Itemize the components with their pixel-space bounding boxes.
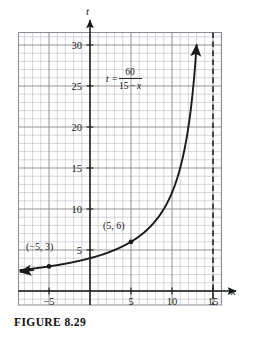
t-tick-label-30: 30 — [72, 40, 83, 51]
data-point--5-3 — [47, 264, 52, 269]
data-point-5-6 — [129, 239, 134, 244]
graph-canvas: −551015 51015202530 (−5, 3) (5, 6) x t t… — [0, 0, 258, 342]
equation-denominator-minus: − — [130, 81, 135, 91]
equation-lhs: t — [106, 74, 109, 84]
x-tick-label-15: 15 — [208, 296, 219, 307]
equation-denominator-a: 15 — [119, 81, 129, 91]
x-tick-label--5: −5 — [43, 296, 54, 307]
t-tick-label-20: 20 — [72, 122, 83, 133]
point-label-5-6: (5, 6) — [103, 220, 125, 232]
t-tick-label-10: 10 — [72, 204, 83, 215]
figure-container: −551015 51015202530 (−5, 3) (5, 6) x t t… — [0, 0, 258, 342]
equation-denominator-b: x — [136, 81, 142, 91]
equation-numerator: 60 — [125, 67, 135, 77]
x-tick-label-5: 5 — [128, 296, 133, 307]
point-label-neg5-3: (−5, 3) — [26, 241, 53, 253]
x-axis-label: x — [230, 285, 236, 297]
t-tick-label-5: 5 — [77, 245, 82, 256]
t-tick-label-15: 15 — [72, 163, 83, 174]
t-tick-label-25: 25 — [72, 81, 83, 92]
figure-caption: FIGURE 8.29 — [14, 316, 86, 328]
equation-equals: = — [112, 74, 117, 84]
x-tick-label-10: 10 — [167, 296, 178, 307]
